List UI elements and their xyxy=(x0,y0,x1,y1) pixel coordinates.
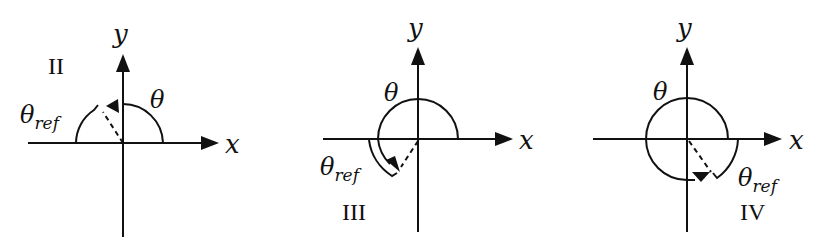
theta-label: θ xyxy=(384,79,399,107)
quadrant-label: IV xyxy=(740,199,766,225)
quadrant-label: III xyxy=(342,199,366,225)
y-axis-arrow-icon xyxy=(680,47,694,65)
theta-ref-label: θref xyxy=(20,101,62,133)
theta-arrow-icon xyxy=(386,156,400,172)
y-axis-label: y xyxy=(676,13,692,43)
y-axis-arrow-icon xyxy=(116,54,130,72)
theta-label: θ xyxy=(653,78,668,106)
y-axis-arrow-icon xyxy=(411,47,425,65)
x-axis-label: x xyxy=(225,129,240,159)
x-axis-arrow-icon xyxy=(764,132,782,146)
y-axis-label: y xyxy=(112,19,128,49)
theta-label: θ xyxy=(150,86,165,114)
diagram-quadrant-iv: y x θ θref IV xyxy=(593,13,804,232)
diagram-quadrant-iii: y x θ θref III xyxy=(320,13,534,232)
theta-arrow-icon xyxy=(106,99,119,113)
terminal-side-dashed xyxy=(103,112,123,143)
diagram-quadrant-ii: y x θ θref II xyxy=(20,19,240,237)
x-axis-arrow-icon xyxy=(201,136,219,150)
x-axis-label: x xyxy=(789,125,804,155)
terminal-side-dashed xyxy=(689,141,711,172)
theta-ref-label: θref xyxy=(738,164,780,196)
x-axis-arrow-icon xyxy=(495,132,513,146)
quadrant-label: II xyxy=(48,53,64,79)
terminal-side-dashed xyxy=(401,141,418,167)
theta-ref-label: θref xyxy=(320,153,362,185)
theta-ref-arc xyxy=(713,139,738,178)
x-axis-label: x xyxy=(519,125,534,155)
theta-ref-arc xyxy=(76,105,98,143)
y-axis-label: y xyxy=(407,13,423,43)
reference-angle-diagrams: y x θ θref II y x θ θref III y x xyxy=(0,0,825,241)
